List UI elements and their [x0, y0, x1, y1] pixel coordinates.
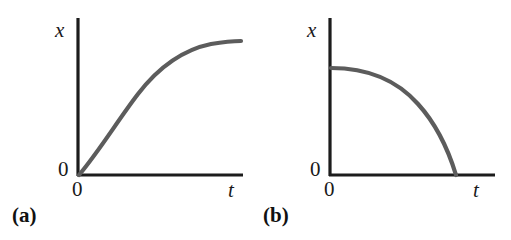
panel-b-plot [255, 0, 511, 240]
figure-root: x t 0 0 (a) x t 0 0 (b) [0, 0, 511, 240]
panel-b-x-axis-label: t [473, 180, 479, 201]
panel-a-curve [79, 41, 241, 175]
panel-a-caption: (a) [12, 205, 37, 226]
panel-b-x-origin-label: 0 [324, 179, 335, 200]
panel-a-plot [0, 0, 256, 240]
panel-b-curve [331, 68, 456, 175]
panel-a-y-axis-label: x [55, 20, 64, 41]
panel-a-x-axis-label: t [228, 180, 234, 201]
panel-b: x t 0 0 (b) [255, 0, 511, 240]
panel-a-y-origin-label: 0 [58, 159, 69, 180]
panel-a: x t 0 0 (a) [0, 0, 256, 240]
panel-b-caption: (b) [263, 205, 289, 226]
panel-b-y-axis-label: x [307, 20, 316, 41]
panel-b-y-origin-label: 0 [310, 159, 321, 180]
panel-a-x-origin-label: 0 [72, 179, 83, 200]
